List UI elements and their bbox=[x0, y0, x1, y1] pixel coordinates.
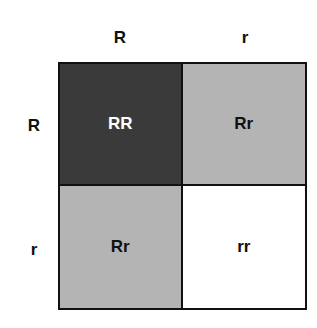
row-allele-label: r bbox=[14, 240, 54, 260]
punnett-cell: Rr bbox=[183, 64, 306, 186]
genotype-label: Rr bbox=[234, 114, 253, 134]
row-allele-label: R bbox=[14, 116, 54, 136]
punnett-cell: RR bbox=[60, 64, 183, 186]
punnett-square: RR Rr Rr rr bbox=[58, 62, 307, 310]
punnett-cell: Rr bbox=[60, 186, 183, 308]
genotype-label: rr bbox=[237, 237, 250, 257]
column-allele-label: r bbox=[225, 28, 265, 48]
punnett-cell: rr bbox=[183, 186, 306, 308]
genotype-label: Rr bbox=[111, 237, 130, 257]
genotype-label: RR bbox=[108, 114, 133, 134]
column-allele-label: R bbox=[100, 28, 140, 48]
